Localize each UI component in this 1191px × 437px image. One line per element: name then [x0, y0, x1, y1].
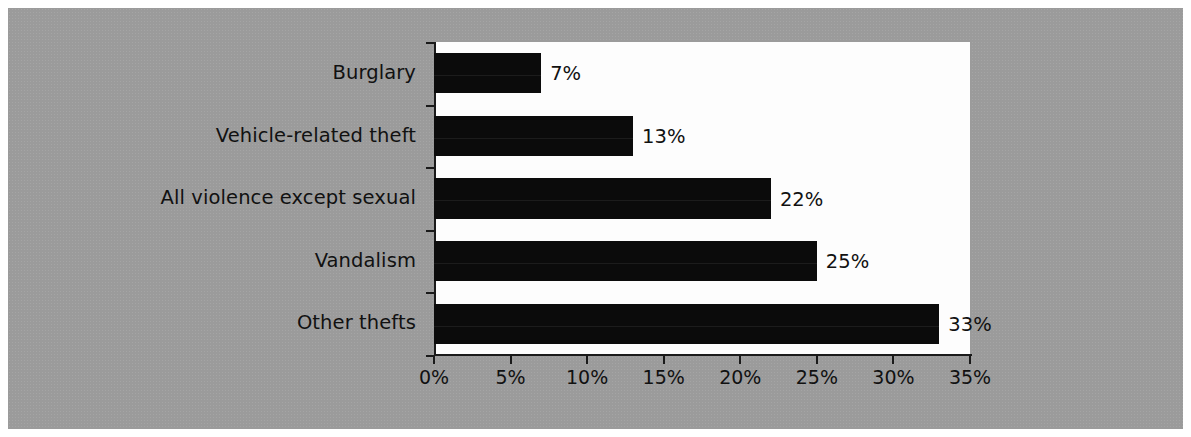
- bar: [434, 53, 541, 93]
- x-axis-tick-label: 5%: [495, 366, 525, 388]
- x-axis-tick: [510, 356, 512, 364]
- x-axis-tick-label: 25%: [796, 366, 838, 388]
- y-axis-tick: [426, 167, 435, 169]
- category-axis-labels: BurglaryVehicle-related theftAll violenc…: [8, 42, 426, 355]
- bar-value-label: 13%: [642, 124, 685, 147]
- x-axis-tick-label: 35%: [949, 366, 991, 388]
- category-label: Other thefts: [297, 292, 416, 355]
- bar-value-label: 25%: [826, 250, 869, 273]
- scanned-page-panel: BurglaryVehicle-related theftAll violenc…: [8, 8, 1183, 429]
- bar-chart: BurglaryVehicle-related theftAll violenc…: [8, 8, 1183, 429]
- x-axis-tick: [739, 356, 741, 364]
- bar-value-label: 33%: [948, 312, 991, 335]
- category-label: Vandalism: [315, 230, 416, 293]
- x-axis-tick-label: 15%: [643, 366, 685, 388]
- bar: [434, 178, 771, 218]
- x-axis-tick: [892, 356, 894, 364]
- figure-container: BurglaryVehicle-related theftAll violenc…: [0, 0, 1191, 437]
- bar-value-label: 22%: [780, 187, 823, 210]
- x-axis-line: [434, 354, 972, 356]
- x-axis-tick-label: 30%: [872, 366, 914, 388]
- bar: [434, 304, 939, 344]
- x-axis-tick: [816, 356, 818, 364]
- x-axis-tick: [586, 356, 588, 364]
- y-axis-tick: [426, 42, 435, 44]
- x-axis-tick-label: 0%: [419, 366, 449, 388]
- category-label: Vehicle-related theft: [216, 105, 416, 168]
- x-axis-tick: [969, 356, 971, 364]
- bar-value-label: 7%: [550, 62, 581, 85]
- y-axis-tick: [426, 292, 435, 294]
- x-axis-tick-label: 10%: [566, 366, 608, 388]
- bar: [434, 116, 633, 156]
- category-label: All violence except sexual: [161, 167, 416, 230]
- bar: [434, 241, 817, 281]
- y-axis-tick: [426, 230, 435, 232]
- y-axis-tick: [426, 105, 435, 107]
- x-axis-tick-label: 20%: [719, 366, 761, 388]
- x-axis-tick: [433, 356, 435, 364]
- x-axis-tick: [663, 356, 665, 364]
- category-label: Burglary: [332, 42, 416, 105]
